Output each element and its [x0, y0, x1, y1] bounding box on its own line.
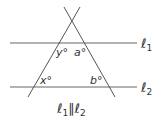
line-l1-label: ℓ1: [140, 36, 152, 53]
angle-y-label: y°: [55, 46, 68, 59]
parallel-caption: ℓ1∥ℓ2: [56, 101, 86, 118]
angle-a-label: a°: [74, 46, 86, 59]
line-l2-label: ℓ2: [140, 80, 152, 97]
parallel-lines-diagram: ℓ1 ℓ2 y° a° x° b° ℓ1∥ℓ2: [0, 0, 165, 124]
angle-b-label: b°: [90, 74, 102, 87]
angle-x-label: x°: [39, 74, 52, 87]
